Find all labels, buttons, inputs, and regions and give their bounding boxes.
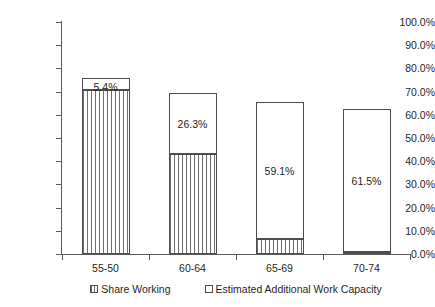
legend-item[interactable]: Share Working [90, 283, 170, 295]
bar-column[interactable]: 59.1% [256, 22, 304, 254]
bar-segment-additional-capacity[interactable]: 26.3% [169, 93, 217, 154]
x-axis-category-label: 70-74 [327, 262, 407, 274]
x-axis-category-label: 65-69 [240, 262, 320, 274]
legend-label: Share Working [101, 283, 170, 295]
bar-column[interactable]: 61.5% [343, 22, 391, 254]
x-axis-category-label: 60-64 [153, 262, 233, 274]
bar-segment-share-working[interactable] [343, 252, 391, 254]
bar-segment-additional-capacity[interactable]: 59.1% [256, 102, 304, 239]
legend-item[interactable]: Estimated Additional Work Capacity [205, 283, 382, 295]
x-axis-tick [149, 254, 150, 260]
bar-value-label: 26.3% [170, 119, 216, 130]
legend-swatch-icon [90, 285, 98, 293]
chart-legend: Share WorkingEstimated Additional Work C… [62, 283, 410, 295]
bar-segment-share-working[interactable] [256, 239, 304, 254]
bar-segment-additional-capacity[interactable]: 5.4% [82, 78, 130, 91]
bar-value-label: 59.1% [257, 166, 303, 177]
bar-column[interactable]: 5.4% [82, 22, 130, 254]
bar-column[interactable]: 26.3% [169, 22, 217, 254]
bar-value-label: 5.4% [83, 82, 129, 93]
bar-segment-share-working[interactable] [169, 154, 217, 254]
legend-swatch-icon [205, 285, 213, 293]
stacked-bar-chart: 0.0%10.0%20.0%30.0%40.0%50.0%60.0%70.0%8… [0, 0, 435, 307]
bar-value-label: 61.5% [344, 176, 390, 187]
x-axis-category-label: 55-50 [66, 262, 146, 274]
x-axis-tick [236, 254, 237, 260]
plot-area: 5.4%26.3%59.1%61.5% [62, 22, 410, 254]
x-axis-tick [62, 254, 63, 260]
bar-segment-share-working[interactable] [82, 90, 130, 254]
bar-segment-additional-capacity[interactable]: 61.5% [343, 109, 391, 252]
x-axis-tick [323, 254, 324, 260]
x-axis-tick [410, 254, 411, 260]
legend-label: Estimated Additional Work Capacity [216, 283, 382, 295]
